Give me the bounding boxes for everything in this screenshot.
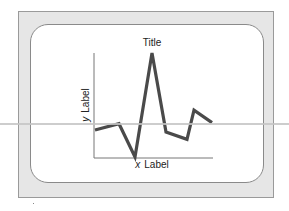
y-axis-var: y — [80, 116, 91, 123]
scan-line-artifact — [0, 123, 289, 125]
x-axis-label: xLabel — [134, 159, 168, 170]
series-line — [95, 53, 212, 157]
x-axis-var: x — [134, 159, 141, 170]
chart-title: Title — [143, 37, 162, 48]
x-axis-text: Label — [144, 159, 168, 170]
scan-speck — [33, 203, 34, 204]
y-axis-text: Label — [80, 88, 91, 112]
line-chart: Title xLabel yLabel — [0, 0, 289, 211]
y-axis-label: yLabel — [80, 88, 91, 122]
